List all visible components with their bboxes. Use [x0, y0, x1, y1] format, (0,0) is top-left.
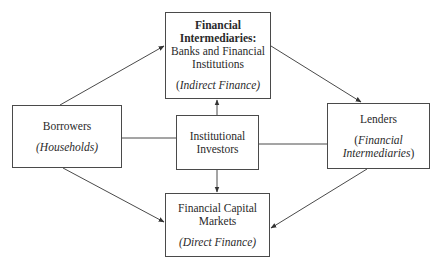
node-body: Institutions [192, 58, 244, 71]
node-institutional-investors: Institutional Investors [176, 115, 259, 170]
node-borrowers: Borrowers (Households) [12, 105, 122, 168]
node-note: (Financial [354, 134, 403, 147]
edge-intermediaries-to-lenders [271, 46, 361, 102]
node-label: Financial Capital [178, 202, 257, 215]
node-label: Borrowers [43, 120, 92, 133]
node-label: Markets [199, 215, 237, 228]
node-body: Banks and Financial [171, 45, 265, 58]
node-note: (Direct Finance) [179, 236, 256, 249]
node-title: Intermediaries: [180, 32, 257, 45]
edge-borrowers-to-intermediaries [60, 46, 164, 105]
node-label: Institutional [190, 130, 246, 143]
note-text: Indirect Finance) [180, 79, 260, 91]
edge-borrowers-to-markets [63, 168, 164, 222]
note-text: Intermediaries [343, 147, 411, 159]
node-lenders: Lenders (Financial Intermediaries) [327, 103, 430, 169]
node-note: (Indirect Finance) [176, 79, 260, 92]
note-text: Financial [358, 134, 403, 146]
node-financial-intermediaries: Financial Intermediaries: Banks and Fina… [165, 12, 271, 99]
node-note: (Households) [36, 141, 98, 154]
node-label: Lenders [360, 113, 397, 126]
node-note: Intermediaries) [343, 147, 415, 160]
node-financial-capital-markets: Financial Capital Markets (Direct Financ… [165, 193, 270, 257]
note-paren: ) [410, 147, 414, 159]
node-label: Investors [196, 143, 238, 156]
edge-lenders-to-markets [271, 169, 367, 228]
node-title: Financial [195, 19, 241, 32]
